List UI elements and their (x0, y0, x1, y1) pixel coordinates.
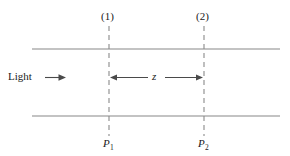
point-p2-subscript: 2 (205, 143, 209, 152)
plane-1-label: (1) (101, 11, 114, 22)
optics-diagram: (1) (2) Light z P1 P2 (0, 0, 290, 156)
plane-2-label: (2) (196, 11, 209, 22)
distance-arrowhead-right-icon (196, 75, 203, 81)
light-label: Light (8, 71, 32, 82)
distance-label: z (152, 71, 156, 82)
point-p1-letter: P (103, 137, 110, 149)
distance-arrowhead-left-icon (110, 75, 117, 81)
point-p2-label: P2 (198, 138, 209, 151)
point-p1-subscript: 1 (110, 143, 114, 152)
point-p1-label: P1 (103, 138, 114, 151)
light-direction-arrowhead-icon (59, 74, 67, 80)
point-p2-letter: P (198, 137, 205, 149)
diagram-canvas (0, 0, 290, 156)
